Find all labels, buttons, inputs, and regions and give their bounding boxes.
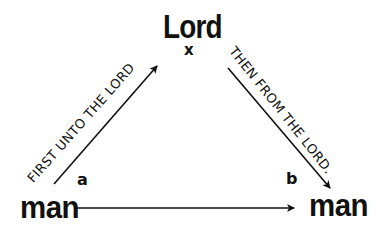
node-man-left: man (20, 192, 79, 223)
variable-x: x (184, 43, 194, 58)
variable-b: b (286, 171, 297, 187)
variable-a: a (77, 172, 88, 188)
arrow-lord-to-man (228, 68, 330, 188)
node-man-right: man (309, 190, 368, 221)
node-lord: Lord (163, 9, 222, 43)
